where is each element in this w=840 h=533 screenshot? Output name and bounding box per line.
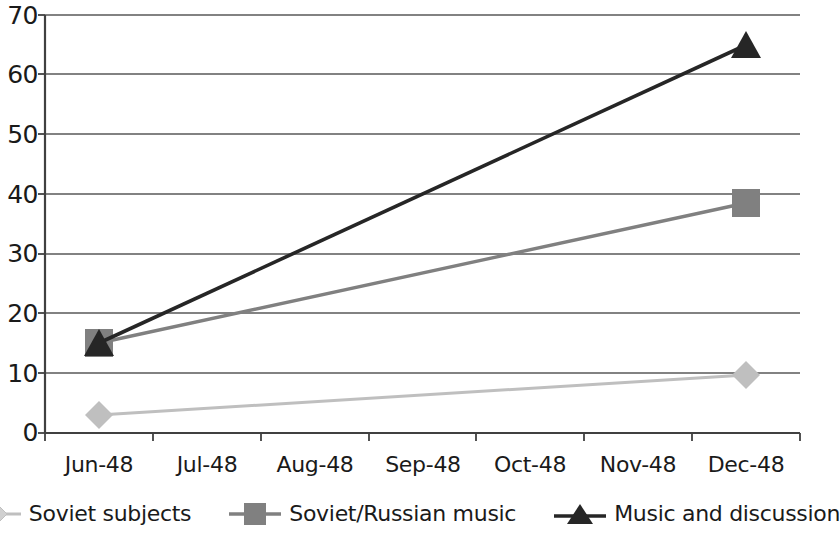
legend-item-soviet-subjects: Soviet subjects [0,501,191,527]
square-marker-icon [227,501,283,527]
legend-label: Soviet subjects [29,501,191,526]
x-axis-tick-label: Nov-48 [584,452,692,477]
x-axis-tick-label: Dec-48 [692,452,800,477]
data-point-marker [732,189,760,217]
legend-label: Soviet/Russian music [289,501,516,526]
legend-label: Music and discussion [614,501,840,526]
data-point-marker [732,361,760,389]
series-soviet-russian-music [85,189,760,357]
legend-item-music-and-discussion: Music and discussion [552,501,840,527]
x-axis-tick-label: Sep-48 [369,452,477,477]
data-point-marker [85,401,113,429]
x-axis-line [45,433,800,441]
triangle-marker-icon [552,501,608,527]
y-axis-line [38,15,45,433]
x-axis-tick-label: Oct-48 [476,452,584,477]
data-point-marker [731,31,761,58]
diamond-marker-icon [0,501,23,527]
x-axis-tick-label: Jul-48 [153,452,261,477]
legend-item-soviet-russian-music: Soviet/Russian music [227,501,516,527]
series-soviet-subjects [85,361,760,429]
chart-legend: Soviet subjects Soviet/Russian music Mus… [0,494,807,533]
x-axis-tick-label: Jun-48 [45,452,153,477]
x-axis-tick-label: Aug-48 [261,452,369,477]
